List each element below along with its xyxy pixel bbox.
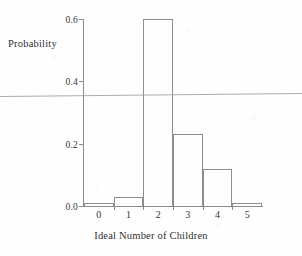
y-tick-label-1: 0.2 (66, 140, 78, 150)
bar-category-5 (232, 203, 262, 206)
y-axis-line (83, 19, 84, 207)
x-tick-label-0: 0 (96, 209, 101, 220)
y-axis-title: Probability (8, 38, 57, 49)
bar-category-2 (143, 19, 173, 206)
x-tick-label-3: 3 (185, 209, 190, 220)
chart-figure: Probability 0.0 0.2 0.4 0.6 0 1 2 3 4 5 … (0, 0, 302, 256)
x-axis-tick-labels: 0 1 2 3 4 5 (84, 209, 262, 225)
y-tick-label-3: 0.6 (66, 15, 78, 25)
bar-category-4 (203, 169, 233, 206)
bar-category-1 (114, 197, 144, 206)
x-tick-label-1: 1 (126, 209, 131, 220)
y-tick-mark-0 (79, 206, 84, 207)
y-tick-label-0: 0.0 (66, 202, 78, 212)
x-tick-label-4: 4 (215, 209, 220, 220)
bar-category-0 (84, 203, 114, 206)
y-axis-tick-labels: 0.0 0.2 0.4 0.6 (56, 19, 78, 207)
y-tick-mark-2 (79, 81, 84, 82)
x-tick-label-2: 2 (156, 209, 161, 220)
y-tick-mark-3 (79, 19, 84, 20)
plot-area (84, 19, 262, 206)
x-axis-title: Ideal Number of Children (0, 230, 302, 241)
y-tick-mark-1 (79, 144, 84, 145)
x-tick-label-5: 5 (245, 209, 250, 220)
bar-category-3 (173, 134, 203, 206)
y-tick-label-2: 0.4 (66, 77, 78, 87)
